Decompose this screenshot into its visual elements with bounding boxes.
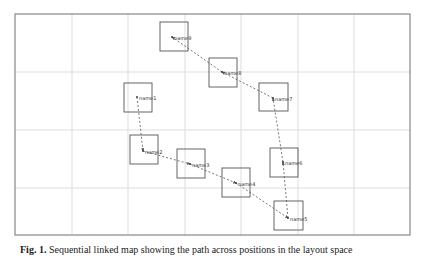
diagram-figure: name1name2name3name4name5name6name7name8… [0,0,423,240]
node-label: name9 [174,35,191,41]
node-name4: name4 [222,168,255,197]
node-point [136,96,138,98]
plot-frame [15,14,410,235]
node-point [221,71,223,73]
caption-text: Sequential linked map showing the path a… [49,244,353,255]
node-name3: name3 [177,149,209,178]
node-label: name2 [145,149,162,155]
node-label: name1 [139,95,156,101]
node-point [282,161,284,163]
edge-layer [137,37,288,218]
edge-name1-name2 [137,97,143,151]
node-point [272,97,274,99]
node-point [142,150,144,152]
figure-caption: Fig. 1. Sequential linked map showing th… [20,244,420,255]
node-label: name4 [238,181,255,187]
node-name9: name9 [160,22,191,51]
edge-name8-name9 [172,37,222,72]
node-label: name8 [224,70,241,76]
node-layer: name1name2name3name4name5name6name7name8… [124,22,307,230]
node-label: name3 [192,162,209,168]
node-label: name7 [275,96,292,102]
node-point [235,182,237,184]
node-label: name6 [285,160,302,166]
node-name5: name5 [274,201,307,230]
node-name2: name2 [130,135,162,164]
node-label: name5 [290,216,307,222]
node-point [171,36,173,38]
node-point [189,163,191,165]
grid-lines [15,14,410,235]
edge-name5-name6 [283,162,288,218]
node-name7: name7 [259,83,292,111]
node-name1: name1 [124,83,156,112]
caption-prefix: Fig. 1. [20,244,46,255]
node-point [287,217,289,219]
